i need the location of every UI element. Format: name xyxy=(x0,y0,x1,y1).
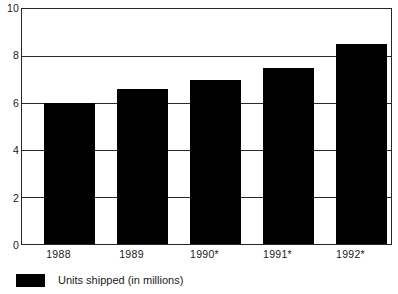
x-axis-tick-label-1988: 1988 xyxy=(23,248,94,260)
bar-1989 xyxy=(117,89,168,244)
y-axis-tick-label-10: 10 xyxy=(1,3,19,13)
y-axis-tick-label-2: 2 xyxy=(1,193,19,203)
chart-legend: Units shipped (in millions) xyxy=(16,274,183,287)
y-axis-tick-label-0: 0 xyxy=(1,240,19,250)
bar-1991 xyxy=(263,68,314,244)
bar-1990 xyxy=(190,80,241,245)
y-axis-tick-label-8: 8 xyxy=(1,50,19,60)
x-axis-tick-label-1990: 1990* xyxy=(169,248,240,260)
y-axis-tick-label-6: 6 xyxy=(1,98,19,108)
bar-chart-figure: 10 8 6 4 2 0 1988 1989 1990* 1991* 1992*… xyxy=(0,0,398,294)
bar-1988 xyxy=(44,103,95,244)
legend-series-label: Units shipped (in millions) xyxy=(58,274,183,287)
x-axis-tick-label-1991: 1991* xyxy=(242,248,313,260)
bar-1992 xyxy=(336,44,387,244)
x-axis-tick-label-1992: 1992* xyxy=(315,248,386,260)
y-axis-tick-label-4: 4 xyxy=(1,145,19,155)
plot-area xyxy=(21,8,392,245)
x-axis-tick-label-1989: 1989 xyxy=(96,248,167,260)
legend-color-swatch-icon xyxy=(16,274,45,287)
